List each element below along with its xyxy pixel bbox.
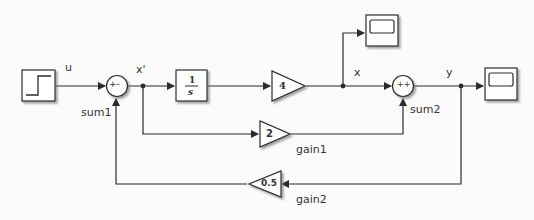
signal-u-label: u xyxy=(65,62,72,73)
integrator-denominator: s xyxy=(188,88,193,97)
sum1-label: sum1 xyxy=(81,107,111,118)
signal-y-label: y xyxy=(446,67,453,78)
sum1-signs: +- xyxy=(109,80,120,89)
sum2-signs: ++ xyxy=(397,81,410,89)
gain1-block[interactable] xyxy=(260,121,290,147)
wire-gain1-sum2[interactable] xyxy=(291,99,403,134)
junction-xprime xyxy=(141,84,146,89)
diagram-canvas: +- ++ 1 s 4 2 0.5 sum1 sum2 gain1 gain2 … xyxy=(0,0,534,220)
gain2-value: 0.5 xyxy=(261,179,277,188)
integrator-numerator: 1 xyxy=(189,76,195,85)
gain1-value: 2 xyxy=(266,129,273,139)
gain4-block[interactable] xyxy=(272,71,305,101)
signal-xprime-label: x' xyxy=(136,64,146,75)
gain4-value: 4 xyxy=(279,81,286,91)
gain1-label: gain1 xyxy=(296,144,327,155)
wire-gain2-sum1[interactable] xyxy=(116,99,247,184)
junction-x xyxy=(341,84,346,89)
signal-x-label: x xyxy=(354,67,361,78)
wire-y-feedback[interactable] xyxy=(282,86,461,184)
sum2-label: sum2 xyxy=(410,104,440,115)
junction-y xyxy=(459,84,464,89)
gain2-label: gain2 xyxy=(296,194,327,205)
